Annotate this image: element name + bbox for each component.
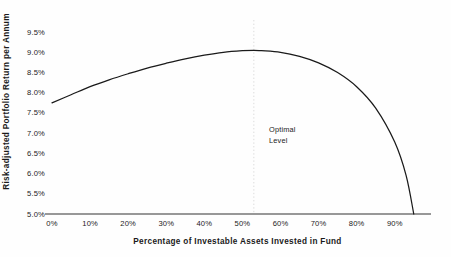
data-curve (52, 50, 414, 214)
plot-area (0, 0, 451, 257)
chart-container: Risk-adjusted Portfolio Return per Annum… (0, 0, 451, 257)
optimal-level-annotation-label: Optimal Level (269, 125, 296, 146)
